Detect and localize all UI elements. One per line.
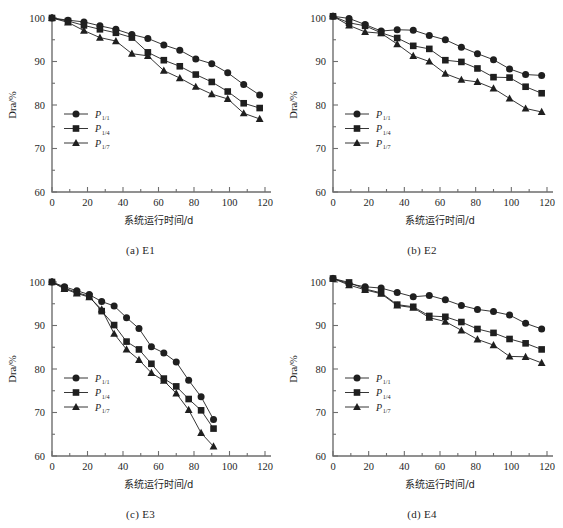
data-point bbox=[410, 43, 417, 50]
data-point bbox=[148, 343, 155, 350]
y-tick-label: 70 bbox=[316, 143, 327, 154]
legend: P1/1P1/4P1/7 bbox=[345, 109, 391, 151]
series-P1-7 bbox=[329, 274, 545, 366]
x-axis-label: 系统运行时间/d bbox=[124, 478, 194, 490]
legend-marker-triangle bbox=[72, 139, 80, 146]
y-tick-label: 80 bbox=[35, 364, 46, 375]
legend-marker-circle bbox=[354, 111, 361, 118]
y-tick-label: 90 bbox=[35, 56, 46, 67]
data-point bbox=[522, 104, 530, 111]
legend-label: P1/7 bbox=[375, 402, 391, 415]
data-point bbox=[111, 322, 118, 329]
y-tick-label: 90 bbox=[316, 56, 327, 67]
legend-marker-triangle bbox=[353, 403, 361, 410]
legend-item-P1-4: P1/4 bbox=[64, 123, 110, 136]
data-point bbox=[506, 352, 514, 359]
data-point bbox=[458, 319, 465, 326]
legend-label-subscript: 1/1 bbox=[383, 378, 391, 385]
data-point bbox=[208, 79, 215, 86]
legend-label: P1/4 bbox=[375, 123, 391, 136]
data-point bbox=[474, 326, 481, 333]
data-point bbox=[538, 72, 545, 79]
data-point bbox=[256, 105, 263, 112]
data-point bbox=[394, 26, 401, 33]
legend-label-subscript: 1/1 bbox=[102, 114, 110, 121]
legend-marker-square bbox=[354, 389, 361, 396]
data-point bbox=[426, 46, 433, 53]
data-point bbox=[442, 296, 449, 303]
legend-label-subscript: 1/4 bbox=[383, 129, 391, 136]
legend-marker-circle bbox=[354, 375, 361, 382]
x-axis-ticks: 020406080100120 bbox=[49, 451, 273, 472]
chart-d: 02040608010012060708090100系统运行时间/dDra/%P… bbox=[281, 264, 563, 528]
data-point bbox=[176, 74, 184, 81]
legend-item-P1-4: P1/4 bbox=[345, 387, 391, 400]
data-point bbox=[240, 100, 247, 107]
legend-label: P1/4 bbox=[375, 387, 391, 400]
legend-label-subscript: 1/7 bbox=[102, 407, 110, 414]
x-tick-label: 120 bbox=[257, 461, 273, 472]
data-point bbox=[538, 346, 545, 353]
data-point bbox=[522, 71, 529, 78]
legend-label: P1/1 bbox=[375, 109, 391, 122]
data-point bbox=[185, 377, 192, 384]
legend-item-P1-1: P1/1 bbox=[64, 373, 110, 386]
data-point bbox=[173, 383, 180, 390]
panel-c: 02040608010012060708090100系统运行时间/dDra/%P… bbox=[0, 264, 281, 528]
y-tick-label: 90 bbox=[35, 320, 46, 331]
data-point bbox=[185, 396, 192, 403]
data-point bbox=[144, 35, 151, 42]
legend-label-subscript: 1/4 bbox=[102, 393, 110, 400]
axis-lines bbox=[52, 14, 271, 192]
x-axis-label: 系统运行时间/d bbox=[405, 214, 475, 226]
data-point bbox=[111, 302, 118, 309]
data-point bbox=[394, 289, 401, 296]
data-point bbox=[506, 74, 513, 81]
x-tick-label: 0 bbox=[330, 197, 335, 208]
x-tick-label: 40 bbox=[118, 197, 129, 208]
y-tick-label: 60 bbox=[35, 187, 46, 198]
legend-label-subscript: 1/1 bbox=[383, 114, 391, 121]
data-point bbox=[98, 298, 105, 305]
axis-lines bbox=[333, 278, 553, 456]
y-tick-label: 70 bbox=[35, 143, 46, 154]
legend-label-subscript: 1/4 bbox=[102, 129, 110, 136]
legend-label: P1/1 bbox=[375, 373, 391, 386]
x-tick-label: 40 bbox=[118, 461, 129, 472]
legend-item-P1-4: P1/4 bbox=[345, 123, 391, 136]
y-tick-label: 100 bbox=[29, 277, 45, 288]
legend-label: P1/4 bbox=[94, 123, 110, 136]
legend-item-P1-7: P1/7 bbox=[345, 138, 391, 151]
series-P1-7 bbox=[48, 14, 263, 122]
chart-a: 02040608010012060708090100系统运行时间/dDra/%P… bbox=[0, 0, 281, 264]
series-P1-7 bbox=[329, 12, 545, 115]
data-point bbox=[197, 429, 205, 436]
x-tick-label: 20 bbox=[82, 461, 93, 472]
data-point bbox=[441, 70, 449, 77]
x-tick-label: 80 bbox=[189, 197, 200, 208]
data-point bbox=[410, 27, 417, 34]
legend-label-subscript: 1/1 bbox=[102, 378, 110, 385]
data-point bbox=[442, 57, 449, 64]
x-tick-label: 120 bbox=[257, 197, 273, 208]
data-point bbox=[192, 71, 199, 78]
data-point bbox=[490, 308, 497, 315]
data-point bbox=[96, 33, 104, 40]
x-tick-label: 80 bbox=[470, 197, 481, 208]
y-axis-label: Dra/% bbox=[7, 355, 18, 383]
figure-grid: 02040608010012060708090100系统运行时间/dDra/%P… bbox=[0, 0, 563, 528]
x-tick-label: 80 bbox=[470, 461, 481, 472]
x-axis-ticks: 020406080100120 bbox=[330, 187, 555, 208]
y-tick-label: 60 bbox=[35, 451, 46, 462]
legend-marker-square bbox=[354, 125, 361, 132]
panel-b: 02040608010012060708090100系统运行时间/dDra/%P… bbox=[281, 0, 563, 264]
legend-label: P1/7 bbox=[94, 138, 110, 151]
legend-label: P1/1 bbox=[94, 109, 110, 122]
series-P1-1 bbox=[330, 275, 546, 332]
x-tick-label: 60 bbox=[153, 197, 164, 208]
data-point bbox=[240, 81, 247, 88]
axis-lines bbox=[52, 278, 271, 456]
legend-marker-square bbox=[73, 389, 80, 396]
legend-label: P1/4 bbox=[94, 387, 110, 400]
data-point bbox=[135, 325, 142, 332]
